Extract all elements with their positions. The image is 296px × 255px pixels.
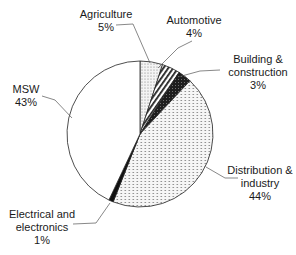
label-distribution-pct: 44% [222, 190, 296, 203]
label-agriculture-name: Agriculture [72, 8, 140, 21]
label-distribution-line2: industry [222, 177, 296, 190]
label-building-pct: 3% [220, 79, 296, 92]
label-building-line2: construction [220, 66, 296, 79]
label-building-line1: Building & [220, 53, 296, 66]
label-agriculture: Agriculture 5% [72, 8, 140, 34]
label-electrical-line1: Electrical and [2, 208, 82, 221]
label-distribution-line1: Distribution & [222, 164, 296, 177]
label-automotive: Automotive 4% [160, 14, 228, 40]
label-automotive-name: Automotive [160, 14, 228, 27]
label-building: Building & construction 3% [220, 53, 296, 92]
label-electrical-pct: 1% [2, 234, 82, 247]
label-msw-pct: 43% [8, 96, 44, 109]
label-electrical-line2: electronics [2, 221, 82, 234]
label-electrical: Electrical and electronics 1% [2, 208, 82, 247]
label-agriculture-pct: 5% [72, 21, 140, 34]
label-distribution: Distribution & industry 44% [222, 164, 296, 203]
label-msw: MSW 43% [8, 83, 44, 109]
label-msw-name: MSW [8, 83, 44, 96]
pie-slices [67, 61, 213, 207]
label-automotive-pct: 4% [160, 27, 228, 40]
